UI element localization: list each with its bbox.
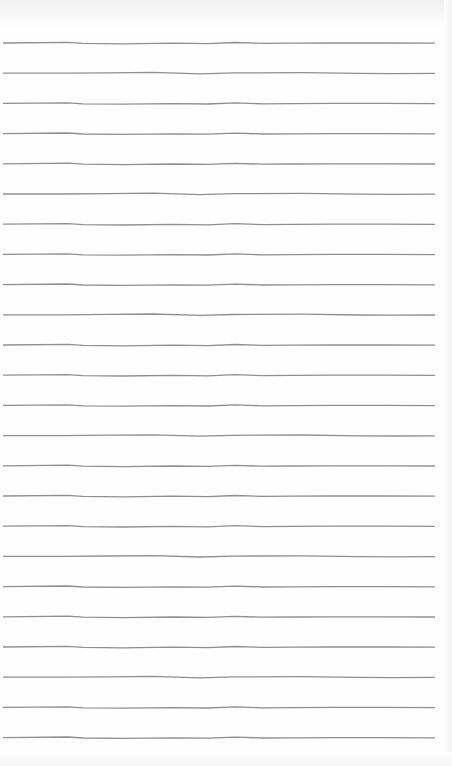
- ruled-line: [3, 254, 435, 255]
- ruled-line: [3, 495, 435, 496]
- ruled-line: [3, 193, 435, 194]
- ruled-line: [3, 646, 435, 647]
- ruled-line: [3, 707, 435, 708]
- ruled-line: [3, 72, 435, 73]
- ruled-line: [3, 676, 435, 677]
- ruled-line: [3, 163, 435, 164]
- ruled-line: [3, 435, 435, 436]
- ruled-line: [3, 616, 435, 617]
- ruled-line: [3, 405, 435, 406]
- ruled-line: [3, 103, 435, 104]
- ruled-lines: [0, 0, 452, 766]
- notebook-page: [0, 0, 452, 766]
- ruled-line: [3, 465, 435, 466]
- ruled-line: [3, 224, 435, 225]
- ruled-line: [3, 344, 435, 345]
- ruled-line: [3, 133, 435, 134]
- ruled-line: [3, 737, 435, 738]
- ruled-line: [3, 284, 435, 285]
- ruled-line: [3, 586, 435, 587]
- ruled-line: [3, 556, 435, 557]
- ruled-line: [3, 42, 435, 43]
- ruled-line: [3, 375, 435, 376]
- ruled-line: [3, 314, 435, 315]
- ruled-line: [3, 526, 435, 527]
